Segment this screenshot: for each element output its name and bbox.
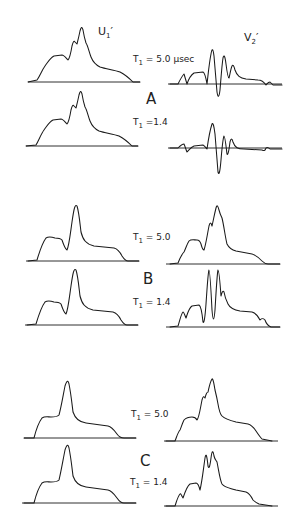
waveform-a-u1-t14 [26, 91, 138, 146]
waveform-a-u1-t5 [28, 27, 140, 82]
waveform-c-v2-t5 [166, 379, 272, 441]
baselines [22, 82, 282, 506]
waveform-c-v2-t14 [166, 452, 272, 506]
waveform-a-v2-t14 [170, 123, 282, 173]
waveform-c-u1-t5 [24, 381, 136, 438]
waveform-b-v2-t5 [170, 206, 280, 264]
waveform-b-v2-t14 [170, 270, 280, 327]
waveform-c-u1-t14 [24, 445, 136, 503]
waveform-a-v2-t5 [170, 50, 282, 97]
waveform-plots [0, 0, 305, 519]
waveform-b-u1-t5 [28, 206, 139, 261]
waveform-b-u1-t14 [27, 270, 138, 325]
